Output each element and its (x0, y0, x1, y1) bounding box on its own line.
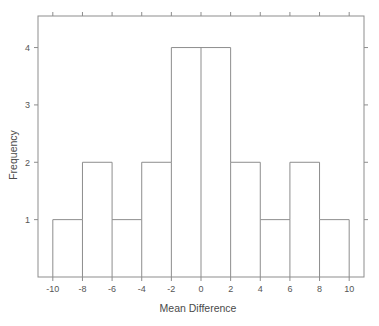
y-axis-title: Frequency (7, 129, 19, 179)
histogram-figure: -10-8-6-4-20246810 1234 Mean Difference … (0, 0, 379, 326)
x-tick-label: 2 (228, 284, 233, 294)
x-tick-label: 10 (344, 284, 354, 294)
y-tick-label: 4 (25, 43, 30, 53)
x-tick-label: -6 (108, 284, 116, 294)
x-tick-label: 0 (198, 284, 203, 294)
x-tick-label: 6 (287, 284, 292, 294)
x-tick-label: 4 (258, 284, 263, 294)
x-axis-title: Mean Difference (160, 302, 237, 314)
x-tick-label: 8 (317, 284, 322, 294)
y-tick-label: 2 (25, 158, 30, 168)
x-tick-label: -10 (46, 284, 59, 294)
x-tick-label: -8 (78, 284, 86, 294)
x-tick-label: -4 (138, 284, 146, 294)
y-tick-label: 3 (25, 100, 30, 110)
x-tick-label: -2 (167, 284, 175, 294)
histogram-plot: -10-8-6-4-20246810 1234 Mean Difference … (0, 0, 379, 326)
y-tick-label: 1 (25, 215, 30, 225)
